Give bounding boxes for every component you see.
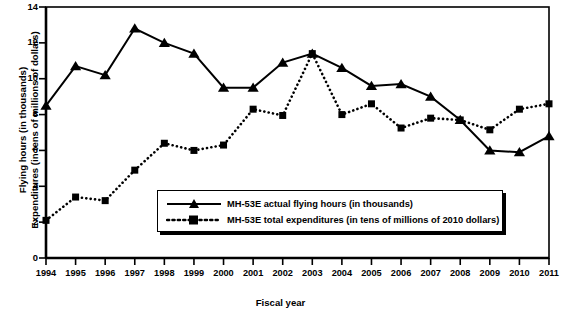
data-point-marker	[427, 115, 434, 122]
series-line-0	[46, 29, 549, 153]
data-point-marker	[336, 63, 347, 72]
data-point-marker	[43, 217, 50, 224]
data-point-marker	[309, 50, 316, 57]
data-point-marker	[457, 116, 464, 123]
data-point-marker	[486, 126, 493, 133]
legend-label-expenditures: MH-53E total expenditures (in tens of mi…	[227, 212, 499, 228]
legend-item-flying-hours: MH-53E actual flying hours (in thousands…	[166, 195, 413, 211]
data-point-marker	[279, 112, 286, 119]
data-point-marker	[161, 140, 168, 147]
chart-figure: Flying hours (in thousands) Expenditures…	[0, 0, 561, 319]
data-point-marker	[190, 147, 197, 154]
data-point-marker	[220, 142, 227, 149]
data-point-marker	[543, 131, 554, 140]
chart-legend: MH-53E actual flying hours (in thousands…	[157, 190, 503, 232]
square-icon	[166, 213, 222, 227]
data-point-marker	[546, 100, 553, 107]
data-point-marker	[250, 106, 257, 113]
data-point-marker	[516, 106, 523, 113]
data-point-marker	[398, 125, 405, 132]
data-point-marker	[131, 167, 138, 174]
data-point-marker	[102, 197, 109, 204]
data-point-marker	[159, 38, 170, 47]
data-point-marker	[70, 61, 81, 70]
data-point-marker	[72, 194, 79, 201]
triangle-icon	[166, 197, 222, 211]
data-point-marker	[368, 100, 375, 107]
data-point-marker	[129, 23, 140, 32]
plot-area	[0, 0, 561, 319]
legend-label-flying-hours: MH-53E actual flying hours (in thousands…	[227, 196, 413, 212]
data-point-marker	[338, 111, 345, 118]
data-point-marker	[425, 91, 436, 100]
legend-item-expenditures: MH-53E total expenditures (in tens of mi…	[166, 211, 499, 227]
